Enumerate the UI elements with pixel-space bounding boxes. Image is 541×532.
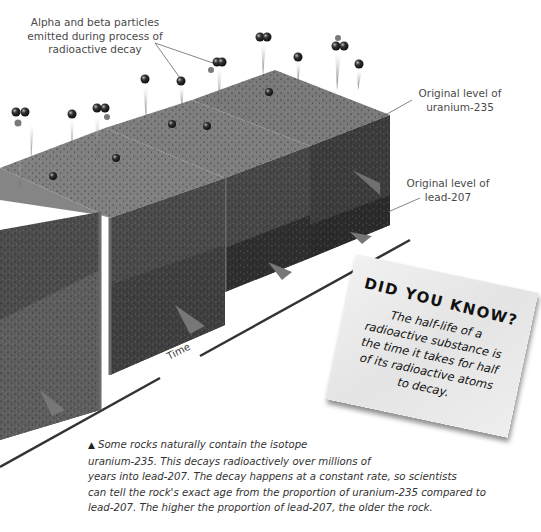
- caption-line: years into lead-207. The decay happens a…: [88, 469, 538, 485]
- particles-label-line: emitted during process of: [20, 30, 170, 44]
- figure-caption: ▲Some rocks naturally contain the isotop…: [88, 437, 538, 516]
- particles-label-line: radioactive decay: [20, 43, 170, 57]
- lead-label-line: Original level of: [388, 177, 508, 191]
- caption-line: can tell the rock's exact age from the p…: [88, 485, 538, 501]
- caption-line: uranium-235. This decays radioactively o…: [88, 454, 538, 470]
- caption-line: Some rocks naturally contain the isotope: [98, 439, 307, 450]
- uranium-level-label: Original level of uranium-235: [400, 87, 520, 114]
- lead-label-line: lead-207: [388, 191, 508, 205]
- triangle-up-icon: ▲: [88, 440, 95, 450]
- particles-label: Alpha and beta particles emitted during …: [20, 16, 170, 57]
- particles-label-line: Alpha and beta particles: [20, 16, 170, 30]
- uranium-label-line: uranium-235: [400, 101, 520, 115]
- lead-level-label: Original level of lead-207: [388, 177, 508, 204]
- uranium-label-line: Original level of: [400, 87, 520, 101]
- caption-line: lead-207. The higher the proportion of l…: [88, 500, 538, 516]
